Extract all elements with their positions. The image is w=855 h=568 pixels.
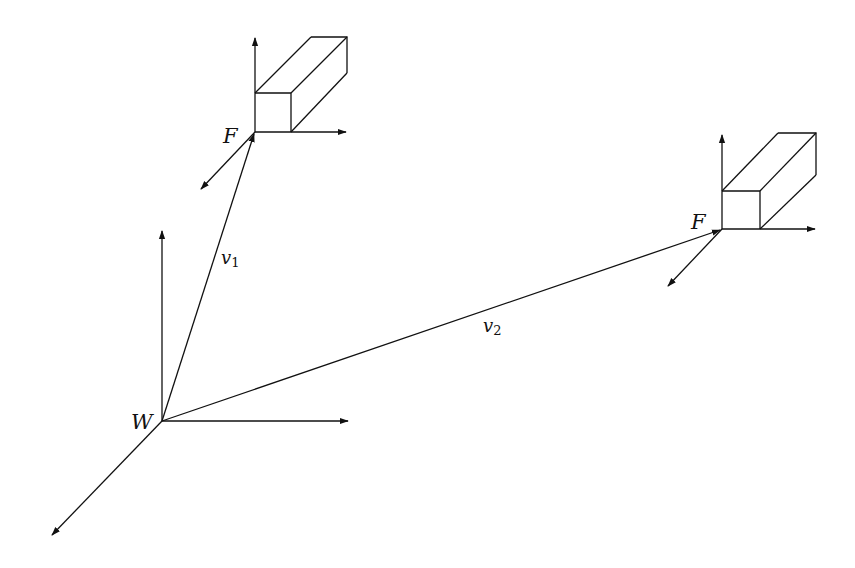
vector-v2-arrow [162, 230, 720, 421]
vector-v1-arrow [162, 134, 254, 421]
frame-right-label: F [690, 210, 707, 234]
world-frame: W [52, 231, 348, 535]
vector-v2-label: v2 [483, 315, 501, 338]
frame-f-top: F [201, 37, 347, 189]
vector-v2: v2 [162, 230, 720, 421]
box-right-front-face [722, 191, 760, 229]
frames-diagram: W v1 v2 F [0, 0, 855, 568]
frame-top-label: F [222, 124, 239, 148]
box-right-edge [722, 133, 778, 191]
world-depth-axis-arrow [52, 421, 162, 535]
world-frame-label: W [131, 410, 155, 434]
vector-v1: v1 [162, 134, 254, 421]
box-top-edge [291, 37, 347, 93]
box-right [722, 133, 816, 229]
frame-f-right: F [668, 133, 816, 286]
box-top-edge [255, 37, 311, 93]
box-top-front-face [255, 93, 291, 132]
vector-v1-label: v1 [221, 247, 239, 270]
frame-right-depth-axis-arrow [668, 229, 722, 286]
box-top [255, 37, 347, 132]
box-top-edge [291, 73, 347, 132]
